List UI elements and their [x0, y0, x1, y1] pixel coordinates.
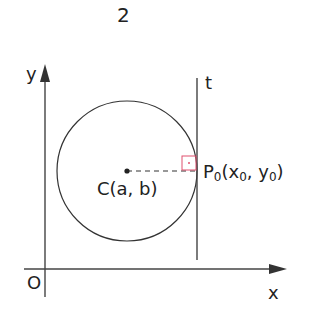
y-axis-arrow-icon — [40, 64, 50, 82]
right-angle-dot — [188, 162, 190, 164]
point-name-sub: 0 — [214, 170, 222, 184]
point-close: ) — [277, 161, 284, 182]
point-name: P — [203, 161, 214, 182]
point-open: (x — [222, 161, 240, 182]
point-y-sub: 0 — [269, 170, 277, 184]
origin-label: O — [27, 274, 41, 292]
y-axis-label: y — [26, 65, 37, 83]
diagram-canvas — [0, 0, 309, 316]
x-axis-label: x — [268, 284, 279, 302]
point-x-sub: 0 — [239, 170, 247, 184]
tangent-label: t — [205, 74, 212, 92]
center-label: C(a, b) — [97, 180, 158, 198]
figure-number: 2 — [117, 5, 130, 25]
point-label: P0(x0, y0) — [203, 163, 284, 181]
point-sep: , y — [247, 161, 269, 182]
center-point — [124, 168, 129, 173]
x-axis-arrow-icon — [269, 264, 287, 274]
